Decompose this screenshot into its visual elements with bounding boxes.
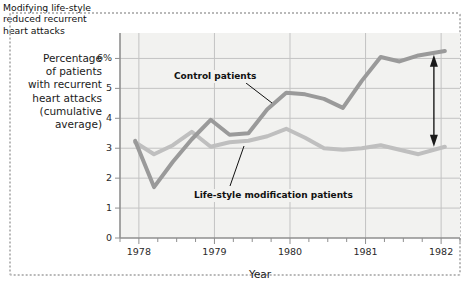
- x-tick-label: 1981: [342, 246, 390, 257]
- chart-figure: Percentage of patients with recurrent he…: [0, 0, 474, 296]
- y-axis-title-line: of patients: [14, 65, 102, 78]
- y-tick-label: 1: [86, 202, 112, 213]
- y-tick-label: 2: [86, 172, 112, 183]
- x-axis-title: Year: [200, 268, 320, 280]
- x-tick-label: 1982: [417, 246, 465, 257]
- annotation-control-patients: Control patients: [172, 70, 258, 83]
- y-tick-label: 4: [86, 112, 112, 123]
- annotation-lifestyle-modification-patients: Life-style modification patients: [192, 189, 355, 202]
- x-axis-ticks: [120, 238, 460, 244]
- x-tick-label: 1978: [115, 246, 163, 257]
- y-tick-label: 0: [86, 232, 112, 243]
- x-tick-label: 1980: [266, 246, 314, 257]
- y-tick-label: 6%: [86, 52, 112, 63]
- x-tick-label: 1979: [190, 246, 238, 257]
- y-tick-label: 5: [86, 82, 112, 93]
- y-axis-title-line: heart attacks: [14, 92, 102, 105]
- y-tick-label: 3: [86, 142, 112, 153]
